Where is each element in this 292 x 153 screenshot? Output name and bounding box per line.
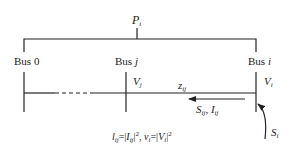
flow-label: Sij, Iij: [196, 104, 218, 117]
impedance-zij-label: zij: [178, 80, 186, 93]
bus-0-label: Bus 0: [14, 56, 39, 67]
injection-si-label: Si: [271, 127, 278, 140]
power-label-pi: Pi: [132, 14, 141, 28]
voltage-vj-label: Vj: [133, 76, 142, 89]
bus-j-label: Bus j: [115, 56, 138, 67]
top-bracket-line: [24, 39, 256, 52]
bus-i-label: Bus i: [248, 56, 271, 67]
injection-arrow-icon: [258, 104, 266, 139]
voltage-vi-label: Vi: [264, 76, 273, 89]
definition-formula: lij=|Iij|2, vi=|Vi|2: [112, 131, 172, 144]
distribution-feeder-diagram: Pi Bus 0 Bus j Bus i Vj Vi zij Sij, Iij …: [0, 0, 292, 153]
